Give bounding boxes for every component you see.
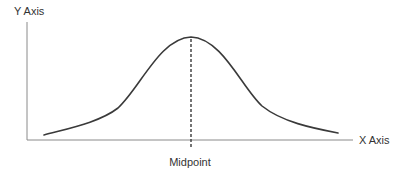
x-axis-label: X Axis: [359, 134, 390, 146]
midpoint-label: Midpoint: [169, 156, 211, 168]
y-axis-label: Y Axis: [14, 5, 45, 17]
bell-curve-diagram: Y Axis X Axis Midpoint: [0, 0, 406, 173]
